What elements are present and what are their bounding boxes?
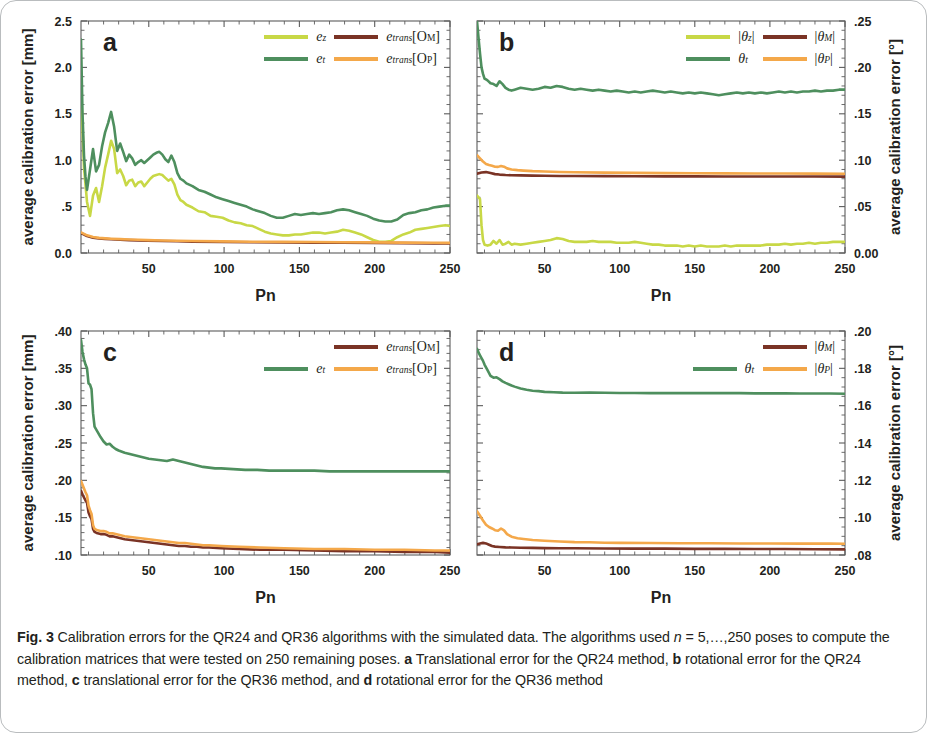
- x-tick-label: 250: [440, 262, 461, 276]
- series-line: [477, 511, 845, 544]
- chart-svg-a: 50100150200250Pn0.0.51.01.52.02.5average…: [9, 7, 464, 315]
- chart-panel-b: 50100150200250Pn0.00.05.10.15.20.25avera…: [463, 7, 925, 315]
- x-tick-label: 50: [538, 262, 552, 276]
- series-line: [81, 340, 450, 471]
- caption-fragment: rotational error for the QR36 method: [372, 672, 603, 688]
- y-tick-label: 0.00: [854, 247, 878, 261]
- plot-frame: [477, 331, 845, 555]
- y-tick-label: .08: [854, 549, 871, 563]
- x-axis-title-d: Pn: [651, 589, 671, 606]
- panel-letter-a: a: [103, 28, 118, 56]
- x-tick-label: 250: [440, 564, 461, 578]
- series-line: [477, 349, 845, 394]
- figure-caption: Fig. 3 Calibration errors for the QR24 a…: [17, 627, 912, 692]
- y-tick-label: .10: [55, 549, 72, 563]
- y-tick-label: .30: [55, 399, 72, 413]
- x-tick-label: 50: [538, 564, 552, 578]
- x-axis-title-c: Pn: [255, 589, 275, 606]
- caption-fragment: b: [672, 651, 681, 667]
- x-tick-label: 200: [759, 262, 780, 276]
- x-tick-label: 250: [835, 262, 856, 276]
- y-tick-label: .05: [854, 200, 871, 214]
- y-tick-label: 2.5: [55, 15, 72, 29]
- caption-fragment: a: [404, 651, 412, 667]
- chart-panel-a: 50100150200250Pn0.0.51.01.52.02.5average…: [9, 7, 464, 315]
- x-axis-a: 50100150200250: [89, 21, 461, 276]
- series-line: [477, 195, 845, 246]
- series-line: [477, 21, 845, 95]
- y-tick-label: .12: [854, 474, 871, 488]
- plot-frame: [81, 21, 450, 253]
- y-axis-title-a: average calibration error [mm]: [19, 29, 36, 246]
- y-axis-d: .08.10.12.14.16.18.20: [477, 325, 871, 563]
- caption-fragment: d: [364, 672, 373, 688]
- y-tick-label: 1.5: [55, 107, 72, 121]
- caption-fragment: n: [674, 629, 682, 645]
- y-axis-b: 0.00.05.10.15.20.25: [477, 15, 878, 261]
- y-tick-label: .5: [62, 200, 72, 214]
- x-axis-title-b: Pn: [651, 287, 671, 304]
- x-tick-label: 250: [835, 564, 856, 578]
- y-tick-label: .10: [854, 154, 871, 168]
- x-axis-title-a: Pn: [255, 287, 275, 304]
- y-tick-label: .20: [854, 325, 871, 339]
- y-tick-label: .16: [854, 399, 871, 413]
- y-axis-title-c: average calibration error [mm]: [19, 335, 36, 552]
- series-group: [477, 349, 845, 550]
- series-group: [477, 21, 845, 247]
- x-tick-label: 100: [609, 564, 630, 578]
- chart-svg-d: 50100150200250Pn.08.10.12.14.16.18.20ave…: [463, 317, 925, 617]
- panel-letter-c: c: [103, 338, 117, 366]
- series-group: [81, 40, 450, 244]
- x-tick-label: 100: [214, 564, 235, 578]
- plot-frame: [81, 331, 450, 555]
- series-line: [81, 40, 450, 222]
- y-tick-label: .14: [854, 437, 871, 451]
- x-tick-label: 100: [609, 262, 630, 276]
- x-axis-b: 50100150200250: [485, 21, 856, 276]
- x-tick-label: 150: [289, 564, 310, 578]
- y-tick-label: .15: [854, 107, 871, 121]
- caption-fragment: translational error for the QR36 method,…: [80, 672, 364, 688]
- x-tick-label: 150: [684, 564, 705, 578]
- series-group: [81, 340, 450, 553]
- x-tick-label: 150: [289, 262, 310, 276]
- series-line: [477, 155, 845, 174]
- y-axis-title-b: average calibration error [°]: [886, 39, 903, 235]
- y-axis-title-d: average calibration error [°]: [886, 345, 903, 541]
- y-tick-label: 1.0: [55, 154, 72, 168]
- caption-fragment: Fig. 3: [17, 629, 54, 645]
- plot-frame: [477, 21, 845, 253]
- x-tick-label: 150: [684, 262, 705, 276]
- chart-panel-c: 50100150200250Pn.10.15.20.25.30.35.40ave…: [9, 317, 464, 617]
- y-tick-label: .10: [854, 511, 871, 525]
- y-tick-label: .25: [854, 15, 871, 29]
- x-tick-label: 200: [364, 564, 385, 578]
- y-tick-label: 0.0: [55, 247, 72, 261]
- series-line: [81, 491, 450, 553]
- x-tick-label: 200: [759, 564, 780, 578]
- caption-fragment: c: [72, 672, 80, 688]
- y-tick-label: .40: [55, 325, 72, 339]
- y-tick-label: 2.0: [55, 61, 72, 75]
- plot-grid: 50100150200250Pn0.0.51.01.52.02.5average…: [1, 5, 927, 623]
- chart-svg-c: 50100150200250Pn.10.15.20.25.30.35.40ave…: [9, 317, 464, 617]
- caption-fragment: Translational error for the QR24 method,: [412, 651, 672, 667]
- y-tick-label: .15: [55, 511, 72, 525]
- x-tick-label: 200: [364, 262, 385, 276]
- y-tick-label: .18: [854, 362, 871, 376]
- x-tick-label: 50: [142, 564, 156, 578]
- caption-fragment: Calibration errors for the QR24 and QR36…: [54, 629, 674, 645]
- chart-panel-d: 50100150200250Pn.08.10.12.14.16.18.20ave…: [463, 317, 925, 617]
- y-tick-label: .20: [854, 61, 871, 75]
- x-tick-label: 100: [214, 262, 235, 276]
- y-tick-label: .35: [55, 362, 72, 376]
- chart-svg-b: 50100150200250Pn0.00.05.10.15.20.25avera…: [463, 7, 925, 315]
- x-tick-label: 50: [142, 262, 156, 276]
- y-tick-label: .25: [55, 437, 72, 451]
- panel-letter-b: b: [499, 28, 514, 56]
- panel-letter-d: d: [499, 338, 514, 366]
- figure-card: 50100150200250Pn0.0.51.01.52.02.5average…: [0, 0, 927, 733]
- y-tick-label: .20: [55, 474, 72, 488]
